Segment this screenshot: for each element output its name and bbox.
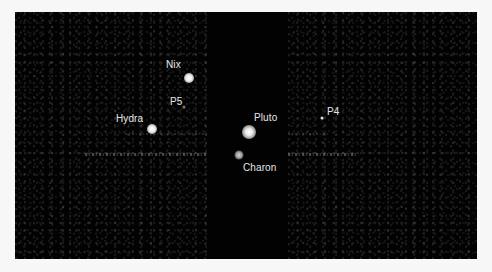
streak-right-upper (288, 133, 328, 135)
pluto-blob (242, 125, 256, 139)
charon-label: Charon (243, 162, 276, 173)
streak-left-upper (125, 133, 207, 135)
streak-left (85, 153, 207, 156)
charon-blob (235, 151, 244, 160)
streak-right (288, 153, 358, 156)
pluto-label: Pluto (254, 112, 277, 123)
nix-label: Nix (166, 59, 181, 70)
hydra-blob (147, 124, 157, 134)
noise-region-right (288, 12, 477, 259)
nix-blob (184, 73, 194, 83)
image-frame: Pluto Charon Nix Hydra P5 P4 (0, 0, 492, 272)
noise-region-left (15, 12, 207, 259)
p5-dot (183, 106, 186, 109)
hydra-label: Hydra (116, 113, 143, 124)
p4-dot (321, 117, 324, 120)
p5-label: P5 (170, 96, 182, 107)
p4-label: P4 (327, 106, 339, 117)
space-image: Pluto Charon Nix Hydra P5 P4 (15, 12, 477, 259)
